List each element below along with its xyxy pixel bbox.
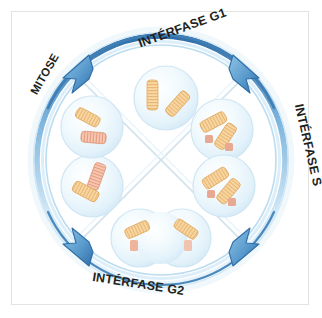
cell-s-centromere-2 <box>225 143 233 151</box>
label-mitose: MITOSE <box>22 68 67 80</box>
cell-mitose-anaphase-membrane <box>61 96 123 158</box>
cell-s-late-membrane <box>193 155 255 217</box>
cell-g1-chromosome-1 <box>147 80 158 110</box>
label-interphase-s: INTÉRFASE S <box>266 138 322 152</box>
cell-g2 <box>111 209 211 267</box>
label-interphase-g1: INTÉRFASE G1 <box>136 21 229 35</box>
cell-s-membrane <box>191 99 253 161</box>
cell-s-centromere-1 <box>205 135 213 143</box>
cell-s-late <box>193 155 255 217</box>
cell-mitose-telophase <box>61 155 123 217</box>
cell-g1 <box>134 66 198 130</box>
cell-g2-centromere-1 <box>130 240 138 251</box>
cell-s <box>191 99 253 161</box>
cell-s-late-centromere-2 <box>228 198 236 206</box>
cell-s-late-centromere-1 <box>207 190 215 198</box>
label-interphase-g2: INTÉRFASE G2 <box>92 277 185 291</box>
cell-cycle-diagram <box>0 0 322 318</box>
cell-g2-centromere-2 <box>184 240 192 251</box>
cell-cycle-figure: INTÉRFASE G1 INTÉRFASE S INTÉRFASE G2 MI… <box>0 0 322 318</box>
cell-mitose-anaphase-chromosome-2 <box>81 131 107 144</box>
cell-mitose-anaphase <box>61 96 123 158</box>
